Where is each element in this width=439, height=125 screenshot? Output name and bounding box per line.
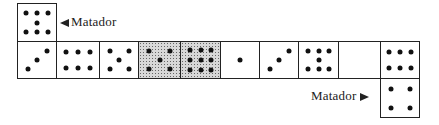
pip-dot bbox=[107, 49, 112, 54]
pip-dot bbox=[267, 67, 272, 72]
pip-dot bbox=[238, 58, 243, 63]
pip-dot bbox=[87, 50, 92, 55]
top-matador-label: Matador bbox=[60, 14, 116, 30]
pip-dot bbox=[35, 29, 40, 34]
pip-dot bbox=[316, 58, 321, 63]
pip-dot bbox=[35, 20, 40, 25]
pip-dot bbox=[187, 68, 192, 73]
pip-dot bbox=[408, 65, 413, 70]
pip-dot bbox=[305, 49, 310, 54]
pip-dot bbox=[76, 65, 81, 70]
pip-dot bbox=[407, 86, 412, 91]
domino-row-cell-2 bbox=[56, 41, 100, 79]
pip-dot bbox=[24, 29, 29, 34]
domino-row-cell-3 bbox=[99, 41, 139, 79]
pip-dot bbox=[198, 58, 203, 63]
pip-dot bbox=[25, 67, 30, 72]
pip-dot bbox=[167, 49, 172, 54]
pip-dot bbox=[126, 49, 131, 54]
pip-dot bbox=[398, 50, 403, 55]
pip-dot bbox=[117, 58, 122, 63]
pip-dot bbox=[316, 67, 321, 72]
pip-dot bbox=[126, 67, 131, 72]
pip-dot bbox=[209, 58, 214, 63]
pip-dot bbox=[187, 47, 192, 52]
pip-dot bbox=[407, 105, 412, 110]
pip-dot bbox=[107, 67, 112, 72]
pip-dot bbox=[87, 65, 92, 70]
pip-dot bbox=[408, 50, 413, 55]
domino-row-cell-7 bbox=[259, 41, 299, 79]
pip-dot bbox=[157, 58, 162, 63]
pip-dot bbox=[398, 65, 403, 70]
domino-row-cell-5 bbox=[180, 41, 221, 79]
arrow-right-icon bbox=[360, 93, 369, 101]
pip-dot bbox=[387, 65, 392, 70]
pip-dot bbox=[387, 50, 392, 55]
domino-row-cell-9 bbox=[338, 41, 381, 79]
pip-dot bbox=[388, 86, 393, 91]
pip-dot bbox=[209, 47, 214, 52]
top-domino-matador bbox=[17, 3, 57, 42]
pip-dot bbox=[209, 68, 214, 73]
bottom-matador-label: Matador bbox=[311, 88, 369, 104]
pip-dot bbox=[327, 67, 332, 72]
pip-dot bbox=[147, 67, 152, 72]
pip-dot bbox=[388, 105, 393, 110]
pip-dot bbox=[198, 68, 203, 73]
pip-dot bbox=[167, 67, 172, 72]
pip-dot bbox=[147, 49, 152, 54]
domino-row-cell-6 bbox=[220, 41, 260, 79]
domino-row-cell-1 bbox=[17, 41, 57, 79]
domino-row-cell-4 bbox=[138, 41, 181, 79]
pip-dot bbox=[76, 50, 81, 55]
pip-dot bbox=[187, 58, 192, 63]
pip-dot bbox=[286, 49, 291, 54]
pip-dot bbox=[327, 49, 332, 54]
pip-dot bbox=[24, 11, 29, 16]
bottom-domino-matador bbox=[380, 78, 420, 118]
pip-dot bbox=[277, 58, 282, 63]
pip-dot bbox=[44, 49, 49, 54]
domino-row-cell-10 bbox=[380, 41, 420, 79]
pip-dot bbox=[198, 47, 203, 52]
pip-dot bbox=[316, 49, 321, 54]
pip-dot bbox=[35, 58, 40, 63]
pip-dot bbox=[35, 11, 40, 16]
domino-row-cell-8 bbox=[298, 41, 339, 79]
pip-dot bbox=[305, 67, 310, 72]
pip-dot bbox=[64, 65, 69, 70]
pip-dot bbox=[45, 29, 50, 34]
pip-dot bbox=[64, 50, 69, 55]
arrow-left-icon bbox=[60, 19, 69, 27]
pip-dot bbox=[45, 11, 50, 16]
